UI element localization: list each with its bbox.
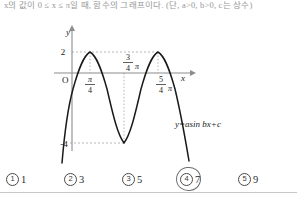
x-tick-label-pi-over-4: π 4 (85, 75, 95, 95)
answer-choices: 1 1 2 3 3 5 4 7 5 9 (0, 168, 297, 190)
answer-choice-5[interactable]: 5 9 (238, 168, 258, 190)
choice-marker-3: 3 (122, 173, 135, 186)
answer-choice-2[interactable]: 2 3 (64, 168, 84, 190)
x-axis-arrow (190, 70, 196, 76)
answer-choice-3[interactable]: 3 5 (122, 168, 142, 190)
choice-value-5: 9 (253, 174, 258, 185)
page-divider (0, 192, 297, 193)
svg-text:4: 4 (159, 86, 163, 95)
graph-figure: y x O 2 -4 π 4 3 4 π 5 4 (0, 11, 297, 166)
choice-value-1: 1 (21, 174, 26, 185)
x-axis-label: x (180, 73, 185, 83)
choice-marker-1: 1 (6, 173, 19, 186)
x-tick-label-5pi-over-4: 5 4 π (156, 75, 173, 95)
worksheet-page: x의 값이 0 ≤ x ≤ π일 때, 함수의 그래프이다. (단, a>0, … (0, 0, 297, 199)
problem-statement: x의 값이 0 ≤ x ≤ π일 때, 함수의 그래프이다. (단, a>0, … (4, 0, 293, 11)
choice-marker-4: 4 (180, 173, 193, 186)
x-tick-label-3pi-over-4: 3 4 π (123, 53, 140, 73)
answer-choice-4[interactable]: 4 7 (180, 168, 200, 190)
choice-value-3: 5 (137, 174, 142, 185)
svg-text:5: 5 (159, 75, 163, 84)
y-axis-label: y (65, 27, 70, 37)
svg-text:4: 4 (126, 64, 130, 73)
choice-value-2: 3 (79, 174, 84, 185)
equation-label: y=asin bx+c (174, 119, 221, 129)
svg-text:π: π (135, 62, 140, 71)
choice-marker-2: 2 (64, 173, 77, 186)
choice-marker-5: 5 (238, 173, 251, 186)
svg-text:π: π (168, 84, 173, 93)
y-tick-label-neg4: -4 (60, 139, 68, 149)
svg-text:3: 3 (126, 53, 130, 62)
svg-text:4: 4 (88, 86, 92, 95)
svg-text:π: π (88, 75, 93, 84)
origin-label: O (62, 75, 69, 85)
choice-value-4: 7 (195, 174, 200, 185)
answer-choice-1[interactable]: 1 1 (6, 168, 26, 190)
y-tick-label-2: 2 (61, 47, 66, 57)
